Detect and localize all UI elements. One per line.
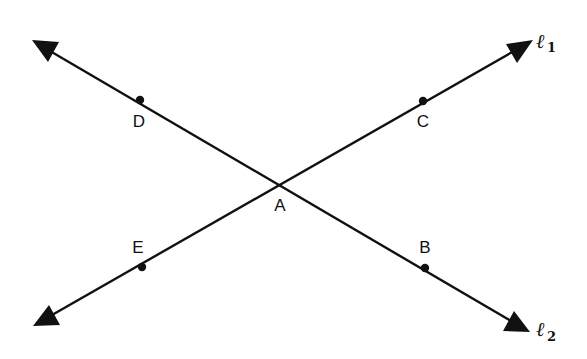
label-l1: ℓ 1: [536, 29, 556, 55]
arrow-l2-start-icon: [32, 40, 59, 62]
label-a: A: [274, 196, 286, 215]
label-c: C: [417, 112, 429, 131]
point-e: [138, 263, 146, 271]
intersecting-lines-diagram: D C A E B ℓ 1 ℓ 2: [0, 0, 587, 359]
arrow-l1-end-icon: [506, 40, 533, 63]
line-l1-stroke: [52, 51, 514, 315]
point-d: [136, 96, 144, 104]
label-l1-main: ℓ: [536, 29, 545, 53]
arrow-l1-start-icon: [33, 305, 60, 326]
label-l2-sub: 2: [547, 329, 556, 344]
arrow-l2-end-icon: [503, 311, 530, 332]
line-l1: [33, 40, 533, 326]
label-l1-sub: 1: [547, 40, 556, 55]
point-c: [419, 97, 427, 105]
point-b: [421, 264, 429, 272]
label-e: E: [132, 238, 143, 257]
label-d: D: [133, 112, 145, 131]
label-l2: ℓ 2: [536, 317, 556, 344]
label-b: B: [419, 238, 430, 257]
label-l2-main: ℓ: [536, 317, 545, 341]
